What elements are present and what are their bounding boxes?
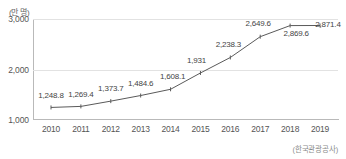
source-attribution: (한국관광공사) bbox=[293, 143, 338, 154]
data-point-label: 1,248.8 bbox=[38, 91, 63, 100]
x-axis-tick-label: 2019 bbox=[311, 124, 329, 134]
data-point-label: 2,871.4 bbox=[315, 20, 340, 29]
x-axis-tick-label: 2016 bbox=[221, 124, 239, 134]
x-axis-tick-label: 2013 bbox=[132, 124, 150, 134]
data-point-label: 1,269.4 bbox=[68, 90, 93, 99]
data-point-label: 2,869.6 bbox=[283, 29, 308, 38]
y-axis-tick-label: 2,000 bbox=[8, 65, 29, 75]
y-axis-tick-label: 3,000 bbox=[8, 14, 29, 24]
data-point-label: 1,931 bbox=[187, 56, 206, 65]
x-axis-tick-label: 2018 bbox=[281, 124, 299, 134]
data-point-label: 2,649.6 bbox=[246, 19, 271, 28]
data-point-label: 2,238.3 bbox=[216, 40, 241, 49]
data-point-label: 1,608.1 bbox=[160, 72, 185, 81]
y-axis-tick-label: 1,000 bbox=[8, 115, 29, 125]
x-axis-tick-label: 2014 bbox=[161, 124, 179, 134]
x-axis-tick-label: 2010 bbox=[42, 124, 60, 134]
x-axis-tick-label: 2012 bbox=[102, 124, 120, 134]
data-point-label: 1,484.6 bbox=[128, 79, 153, 88]
data-point-label: 1,373.7 bbox=[98, 84, 123, 93]
x-axis-tick-label: 2011 bbox=[72, 124, 89, 134]
x-axis-tick-label: 2017 bbox=[251, 124, 269, 134]
tourism-line-chart: (만 명) 1,0002,0003,000 201020112012201320… bbox=[0, 0, 346, 159]
x-axis-tick-label: 2015 bbox=[191, 124, 209, 134]
